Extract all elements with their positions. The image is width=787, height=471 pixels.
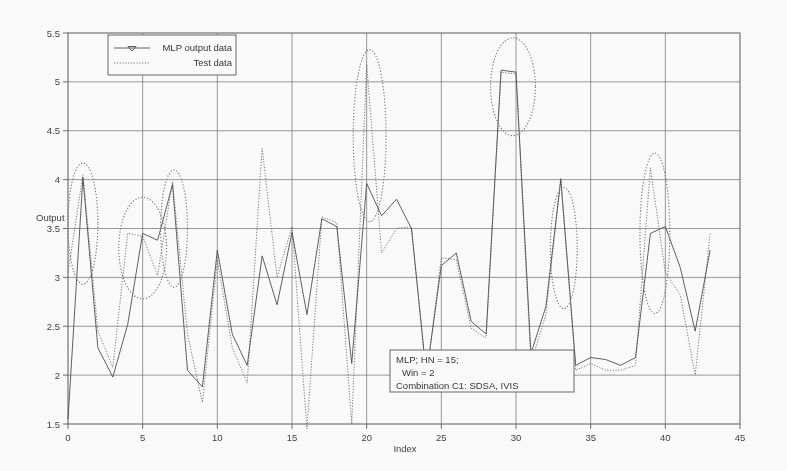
y-axis-ticks: 1.522.533.544.555.5 [47, 28, 68, 430]
annotation-text-box: MLP; HN = 15; Win = 2 Combination C1: SD… [390, 350, 574, 392]
x-axis-title: Index [393, 443, 416, 454]
x-tick-label: 20 [361, 432, 372, 443]
y-tick-label: 3.5 [47, 223, 60, 234]
annotation-line-3: Combination C1: SDSA, IVIS [396, 380, 519, 391]
x-tick-label: 45 [735, 432, 746, 443]
annotation-line-2: Win = 2 [402, 367, 434, 378]
y-tick-label: 2.5 [47, 321, 60, 332]
x-tick-label: 30 [511, 432, 522, 443]
mlp-vs-test-line-chart: 1.522.533.544.555.5 051015202530354045 I… [0, 0, 787, 471]
legend-box [108, 35, 236, 75]
y-tick-label: 1.5 [47, 419, 60, 430]
x-tick-label: 5 [140, 432, 145, 443]
y-tick-label: 3 [55, 272, 60, 283]
y-tick-label: 2 [55, 370, 60, 381]
y-tick-label: 5.5 [47, 28, 60, 39]
x-tick-label: 40 [660, 432, 671, 443]
y-tick-label: 4 [55, 174, 60, 185]
y-axis-title: Output [36, 212, 65, 223]
x-tick-label: 35 [585, 432, 596, 443]
y-tick-label: 5 [55, 76, 60, 87]
x-tick-label: 0 [65, 432, 70, 443]
y-tick-label: 4.5 [47, 125, 60, 136]
x-tick-label: 10 [212, 432, 223, 443]
x-axis-ticks: 051015202530354045 [65, 424, 745, 443]
x-tick-label: 25 [436, 432, 447, 443]
legend-label-test: Test data [193, 57, 232, 68]
x-tick-label: 15 [287, 432, 298, 443]
annotation-line-1: MLP; HN = 15; [396, 354, 459, 365]
legend-label-mlp: MLP output data [162, 42, 232, 53]
chart-legend: MLP output data Test data [108, 35, 236, 75]
chart-figure: 1.522.533.544.555.5 051015202530354045 I… [0, 0, 787, 471]
